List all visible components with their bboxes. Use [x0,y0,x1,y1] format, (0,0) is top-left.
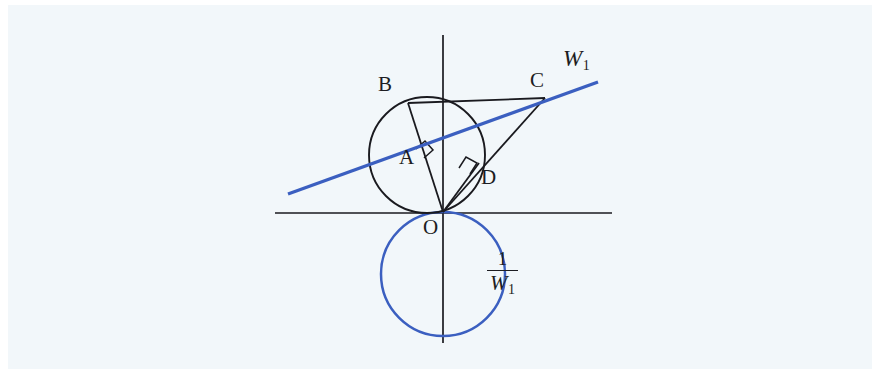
label-line-w1-subscript: 1 [583,58,590,73]
label-circle-inverse-w1: 1 W1 [487,249,518,298]
segment-oc [443,98,545,212]
label-point-c: C [530,70,544,91]
label-circle-inverse-denominator-subscript: 1 [508,282,515,297]
right-angle-mark-d [459,157,477,174]
label-point-a: A [399,147,414,168]
label-circle-inverse-numerator: 1 [487,249,518,270]
label-line-w1: W1 [563,47,590,73]
label-circle-inverse-denominator-base: W [490,271,508,295]
segment-od [443,163,479,212]
label-line-w1-base: W [563,46,582,71]
label-point-d: D [481,167,496,188]
segment-bc [408,98,545,103]
label-circle-inverse-denominator: W1 [487,271,518,298]
geometry-figure [0,0,880,374]
label-point-o: O [423,217,438,238]
figure-page: B A C D O W1 1 W1 [0,0,880,374]
label-point-b: B [378,74,392,95]
